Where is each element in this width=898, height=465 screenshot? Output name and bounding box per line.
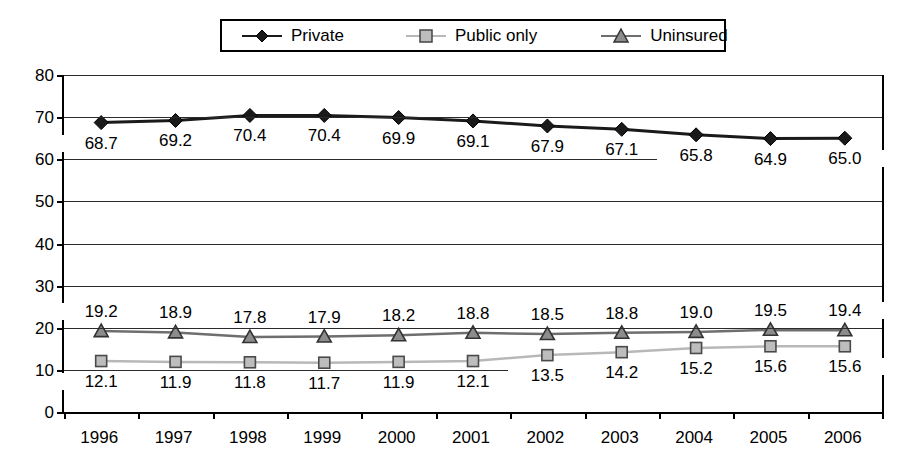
square-data-point xyxy=(393,356,404,367)
data-label: 17.8 xyxy=(211,309,289,326)
data-label: 68.7 xyxy=(62,135,140,152)
y-axis-label: 60 xyxy=(8,151,54,168)
y-axis-label: 70 xyxy=(8,109,54,126)
y-axis-label: 10 xyxy=(8,362,54,379)
data-label: 11.7 xyxy=(285,375,363,392)
y-axis-label: 0 xyxy=(8,404,54,421)
data-label: 13.5 xyxy=(508,367,586,384)
y-axis-tick xyxy=(57,159,64,161)
gridline xyxy=(64,201,882,202)
x-axis-tick xyxy=(585,412,587,419)
square-data-point xyxy=(319,357,330,368)
series-uninsured xyxy=(94,323,852,343)
y-axis-label: 50 xyxy=(8,193,54,210)
square-data-point xyxy=(765,341,776,352)
data-label: 70.4 xyxy=(285,127,363,144)
triangle-marker-icon xyxy=(599,27,643,45)
data-label: 17.9 xyxy=(285,309,363,326)
y-axis-label: 20 xyxy=(8,320,54,337)
data-label: 18.9 xyxy=(136,304,214,321)
x-axis-label: 2001 xyxy=(434,429,508,446)
x-axis-tick xyxy=(733,412,735,419)
data-label: 65.8 xyxy=(657,147,735,164)
square-data-point xyxy=(616,347,627,358)
diamond-data-point xyxy=(169,113,183,127)
data-label: 19.5 xyxy=(731,302,809,319)
y-axis-label: 80 xyxy=(8,67,54,84)
legend-label-private: Private xyxy=(291,27,344,44)
square-data-point xyxy=(839,341,850,352)
y-axis-tick xyxy=(57,244,64,246)
data-label: 69.9 xyxy=(359,130,437,147)
x-axis-label: 2003 xyxy=(583,429,657,446)
data-label: 15.2 xyxy=(657,360,735,377)
diamond-data-point xyxy=(689,128,703,142)
data-label: 18.2 xyxy=(359,307,437,324)
chart-legend: Private Public only Uninsured xyxy=(220,19,726,52)
data-label: 18.5 xyxy=(508,306,586,323)
x-axis-line xyxy=(64,412,882,414)
legend-item-public-only[interactable]: Public only xyxy=(404,21,537,50)
x-axis-tick xyxy=(436,412,438,419)
x-axis-tick xyxy=(808,412,810,419)
square-data-point xyxy=(96,356,107,367)
x-axis-tick xyxy=(213,412,215,419)
square-data-point xyxy=(468,356,479,367)
x-axis-label: 1997 xyxy=(136,429,210,446)
x-axis-tick xyxy=(287,412,289,419)
square-data-point xyxy=(170,356,181,367)
data-label: 18.8 xyxy=(434,305,512,322)
x-axis-label: 2000 xyxy=(359,429,433,446)
data-label: 64.9 xyxy=(731,151,809,168)
x-axis-label: 1998 xyxy=(211,429,285,446)
x-axis-label: 2005 xyxy=(731,429,805,446)
legend-label-public-only: Public only xyxy=(455,27,537,44)
data-label: 19.0 xyxy=(657,304,735,321)
diamond-data-point xyxy=(243,108,257,122)
data-label: 15.6 xyxy=(731,358,809,375)
data-label: 69.1 xyxy=(434,133,512,150)
line-chart: Private Public only Uninsured 807060 xyxy=(0,0,898,465)
x-axis-label: 2006 xyxy=(806,429,880,446)
diamond-data-point xyxy=(540,119,554,133)
data-label: 14.2 xyxy=(583,364,661,381)
diamond-data-point xyxy=(838,131,852,145)
data-label: 19.4 xyxy=(806,302,884,319)
legend-item-private[interactable]: Private xyxy=(240,21,344,50)
square-data-point xyxy=(691,342,702,353)
y-axis-tick xyxy=(57,286,64,288)
y-axis-label: 30 xyxy=(8,278,54,295)
x-axis-tick xyxy=(138,412,140,419)
y-axis-tick xyxy=(57,201,64,203)
y-axis-tick xyxy=(57,328,64,330)
data-label: 11.9 xyxy=(136,374,214,391)
data-label: 18.8 xyxy=(583,305,661,322)
legend-label-uninsured: Uninsured xyxy=(650,27,728,44)
diamond-data-point xyxy=(317,108,331,122)
x-axis-label: 2002 xyxy=(508,429,582,446)
data-label: 67.1 xyxy=(583,141,661,158)
data-label: 12.1 xyxy=(434,373,512,390)
diamond-data-point xyxy=(763,132,777,146)
x-axis-label: 1996 xyxy=(62,429,136,446)
y-axis-tick xyxy=(57,117,64,119)
gridline xyxy=(64,75,882,76)
diamond-data-point xyxy=(466,114,480,128)
diamond-data-point xyxy=(615,122,629,136)
x-axis-tick xyxy=(64,412,66,419)
square-marker-icon xyxy=(404,27,448,45)
data-label: 11.9 xyxy=(359,374,437,391)
data-label: 67.9 xyxy=(508,138,586,155)
x-axis-tick xyxy=(882,412,884,419)
gridline xyxy=(64,244,882,245)
data-label: 19.2 xyxy=(62,303,140,320)
data-label: 11.8 xyxy=(211,374,289,391)
gridline xyxy=(64,117,882,118)
gridline xyxy=(64,328,882,329)
legend-item-uninsured[interactable]: Uninsured xyxy=(599,21,728,50)
data-label: 69.2 xyxy=(136,132,214,149)
y-axis-tick xyxy=(57,412,64,414)
y-axis-label: 40 xyxy=(8,236,54,253)
y-axis-tick xyxy=(57,75,64,77)
data-label: 65.0 xyxy=(806,150,884,167)
